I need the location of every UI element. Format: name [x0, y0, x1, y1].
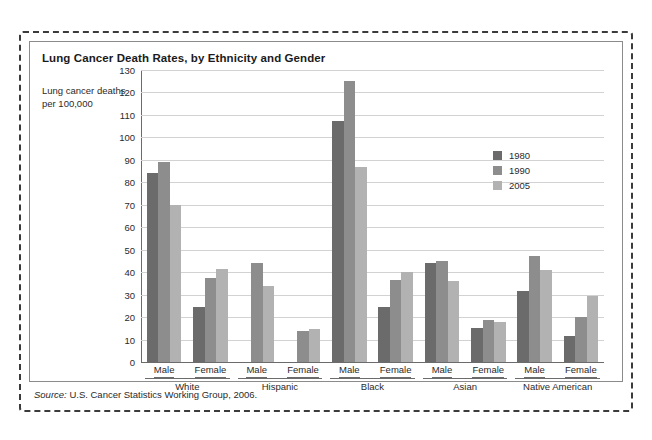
subcategory-text: Male	[246, 364, 267, 378]
y-tick-label: 80	[124, 177, 135, 188]
y-axis-title: Lung cancer deaths per 100,000	[42, 84, 128, 110]
bar	[448, 281, 460, 362]
bar	[575, 317, 587, 362]
subcategory-label: Male	[141, 364, 187, 378]
bar	[216, 269, 228, 362]
legend-item: 2005	[493, 178, 530, 193]
source-text: U.S. Cancer Statistics Working Group, 20…	[67, 389, 257, 400]
bar	[147, 173, 159, 362]
y-tick-label: 90	[124, 154, 135, 165]
group-rule	[145, 378, 230, 379]
bar	[390, 280, 402, 362]
subcategory-label: Female	[558, 364, 604, 378]
group-label: Asian	[423, 381, 508, 392]
y-tick-label: 0	[130, 357, 135, 368]
group-rule	[515, 378, 600, 379]
bar	[587, 296, 599, 362]
subcategory-label: Female	[187, 364, 233, 378]
bar	[378, 307, 390, 362]
legend-item: 1980	[493, 148, 530, 163]
bar	[158, 162, 170, 362]
bars-layer	[141, 70, 604, 362]
bar	[494, 322, 506, 362]
bar	[332, 121, 344, 362]
subcategory-label: Male	[419, 364, 465, 378]
bar	[529, 256, 541, 362]
y-tick-label: 110	[120, 109, 135, 120]
bar	[517, 291, 529, 362]
subcategory-label: Male	[511, 364, 557, 378]
y-tick-label: 120	[119, 87, 135, 98]
bar	[344, 81, 356, 362]
bar	[297, 331, 309, 362]
chart-title: Lung Cancer Death Rates, by Ethnicity an…	[42, 52, 325, 64]
bar	[170, 205, 182, 362]
legend-label: 1980	[509, 150, 530, 161]
bar	[205, 278, 217, 362]
legend-swatch	[493, 151, 502, 160]
bar	[564, 336, 576, 362]
legend-label: 1990	[509, 165, 530, 176]
group-rule	[238, 378, 323, 379]
bar	[401, 272, 413, 362]
legend-swatch	[493, 166, 502, 175]
group-rule	[423, 378, 508, 379]
subcategory-text: Female	[287, 364, 319, 378]
subcategory-label: Female	[373, 364, 419, 378]
legend: 198019902005	[493, 148, 530, 193]
plot-area: 0102030405060708090100110120130	[141, 70, 604, 362]
subcategory-text: Male	[339, 364, 360, 378]
bar	[263, 286, 275, 362]
subcategory-label: Male	[234, 364, 280, 378]
y-tick-label: 50	[124, 244, 135, 255]
y-tick-label: 60	[124, 222, 135, 233]
source-label: Source:	[34, 389, 67, 400]
subcategory-label: Female	[465, 364, 511, 378]
bar	[309, 329, 321, 362]
legend-label: 2005	[509, 180, 530, 191]
subcategory-label: Female	[280, 364, 326, 378]
y-tick-label: 70	[124, 199, 135, 210]
bar	[540, 270, 552, 362]
legend-item: 1990	[493, 163, 530, 178]
y-tick-label: 40	[124, 267, 135, 278]
subcategory-label: Male	[326, 364, 372, 378]
subcategory-text: Male	[524, 364, 545, 378]
group-rule	[330, 378, 415, 379]
bar	[193, 307, 205, 362]
group-label: Native American	[515, 381, 600, 392]
subcategory-text: Female	[380, 364, 412, 378]
source-note: Source: U.S. Cancer Statistics Working G…	[34, 389, 257, 400]
subcategory-text: Female	[565, 364, 597, 378]
subcategory-text: Male	[154, 364, 175, 378]
y-tick-label: 20	[124, 312, 135, 323]
legend-swatch	[493, 181, 502, 190]
chart-card: Lung Cancer Death Rates, by Ethnicity an…	[29, 41, 623, 382]
bar	[425, 263, 437, 362]
subcategory-text: Female	[195, 364, 227, 378]
y-tick-label: 100	[119, 132, 135, 143]
group-label: Black	[330, 381, 415, 392]
bar	[251, 263, 263, 362]
subcategory-text: Female	[472, 364, 504, 378]
subcategory-text: Male	[432, 364, 453, 378]
y-tick-label: 10	[124, 334, 135, 345]
y-tick-label: 130	[119, 65, 135, 76]
bar	[355, 167, 367, 362]
bar	[483, 320, 495, 362]
bar	[471, 328, 483, 362]
bar	[436, 261, 448, 362]
y-tick-label: 30	[124, 289, 135, 300]
